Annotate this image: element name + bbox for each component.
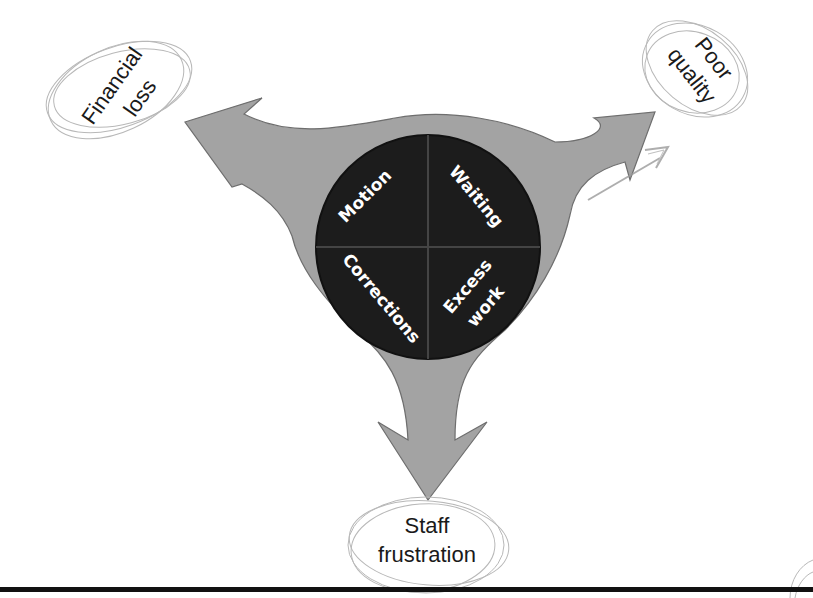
staff-frustration-line2: frustration [378, 542, 476, 567]
bottom-divider-rule [0, 587, 813, 592]
diagram-canvas: Motion Waiting Corrections Excess work F… [0, 0, 813, 598]
corner-doodle-icon [790, 560, 813, 598]
staff-frustration-line1: Staff [405, 513, 451, 538]
outcome-financial-loss: Financial loss [33, 22, 204, 159]
diagram-svg: Motion Waiting Corrections Excess work F… [0, 0, 813, 598]
outcome-staff-frustration: Staff frustration [346, 494, 513, 597]
